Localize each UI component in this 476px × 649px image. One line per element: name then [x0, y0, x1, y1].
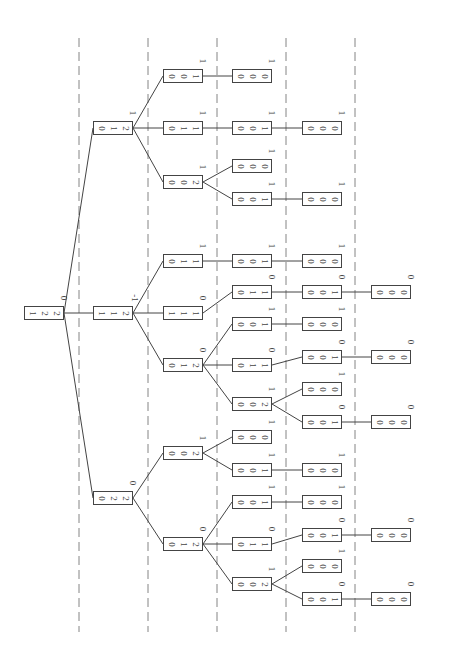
pile-count: 0: [306, 321, 315, 327]
pile-count: 0: [375, 596, 384, 602]
pile-count: 1: [330, 596, 339, 602]
pile-count: 0: [306, 419, 315, 425]
pile-count: 1: [179, 541, 188, 547]
pile-count: 0: [318, 419, 327, 425]
tree-node: 000: [232, 430, 272, 444]
tree-node: 011: [232, 358, 272, 372]
minimax-value: 0: [337, 518, 347, 523]
pile-count: 1: [28, 310, 37, 316]
pile-count: 0: [97, 125, 106, 131]
pile-count: 0: [260, 163, 269, 169]
pile-count: 1: [330, 419, 339, 425]
tree-node: 002: [232, 577, 272, 591]
pile-count: 1: [97, 310, 106, 316]
pile-count: 0: [236, 401, 245, 407]
pile-count: 0: [236, 289, 245, 295]
pile-count: 0: [306, 354, 315, 360]
minimax-value: 1: [198, 111, 208, 116]
pile-count: 0: [179, 73, 188, 79]
pile-count: 1: [109, 125, 118, 131]
pile-count: 0: [318, 532, 327, 538]
pile-count: 1: [248, 362, 257, 368]
tree-node: 002: [232, 397, 272, 411]
pile-count: 0: [318, 354, 327, 360]
minimax-value: 1: [198, 436, 208, 441]
pile-count: 0: [248, 499, 257, 505]
tree-node: 000: [371, 350, 411, 364]
tree-node: 000: [302, 495, 342, 509]
pile-count: 0: [179, 450, 188, 456]
minimax-value: 1: [267, 453, 277, 458]
pile-count: 0: [167, 73, 176, 79]
minimax-value: 1: [337, 372, 347, 377]
minimax-value: 1: [267, 59, 277, 64]
minimax-value: 1: [198, 165, 208, 170]
pile-count: 1: [260, 362, 269, 368]
minimax-value: 1: [337, 549, 347, 554]
pile-count: 0: [260, 434, 269, 440]
tree-node: 000: [302, 463, 342, 477]
pile-count: 0: [248, 321, 257, 327]
pile-count: 0: [375, 289, 384, 295]
pile-count: 0: [248, 258, 257, 264]
pile-count: 1: [260, 541, 269, 547]
pile-count: 0: [306, 386, 315, 392]
minimax-value: 1: [267, 149, 277, 154]
pile-count: 0: [306, 258, 315, 264]
minimax-value: 1: [267, 111, 277, 116]
minimax-value: 0: [337, 582, 347, 587]
pile-count: 0: [318, 386, 327, 392]
pile-count: 0: [387, 532, 396, 538]
tree-node: 011: [163, 121, 203, 135]
minimax-value: 0: [406, 582, 416, 587]
pile-count: 1: [260, 196, 269, 202]
tree-edge: [64, 313, 93, 498]
pile-count: 1: [248, 289, 257, 295]
pile-count: 1: [260, 125, 269, 131]
pile-count: 0: [236, 125, 245, 131]
pile-count: 0: [318, 499, 327, 505]
pile-count: 0: [318, 125, 327, 131]
pile-count: 0: [318, 467, 327, 473]
pile-count: 2: [40, 310, 49, 316]
minimax-value: 0: [267, 275, 277, 280]
minimax-value: 1: [198, 59, 208, 64]
minimax-value: 0: [198, 348, 208, 353]
tree-node: 001: [232, 121, 272, 135]
pile-count: 0: [306, 563, 315, 569]
pile-count: 0: [330, 563, 339, 569]
pile-count: 0: [318, 289, 327, 295]
tree-edge: [272, 535, 302, 544]
pile-count: 0: [318, 196, 327, 202]
tree-node: 011: [163, 254, 203, 268]
pile-count: 0: [318, 563, 327, 569]
pile-count: 0: [248, 163, 257, 169]
pile-count: 1: [179, 125, 188, 131]
minimax-value: 1: [337, 111, 347, 116]
pile-count: 0: [167, 125, 176, 131]
tree-node: 000: [371, 285, 411, 299]
tree-node: 001: [302, 592, 342, 606]
tree-node: 000: [371, 528, 411, 542]
pile-count: 0: [248, 125, 257, 131]
pile-count: 1: [330, 354, 339, 360]
pile-count: 1: [330, 289, 339, 295]
tree-node: 001: [302, 285, 342, 299]
pile-count: 0: [375, 419, 384, 425]
pile-count: 0: [318, 258, 327, 264]
tree-node: 000: [302, 121, 342, 135]
pile-count: 2: [109, 495, 118, 501]
pile-count: 0: [318, 596, 327, 602]
pile-count: 0: [306, 196, 315, 202]
tree-node: 002: [163, 175, 203, 189]
minimax-value: 0: [128, 481, 138, 486]
pile-count: 0: [167, 179, 176, 185]
pile-count: 0: [330, 258, 339, 264]
tree-node: 001: [302, 350, 342, 364]
pile-count: 0: [330, 196, 339, 202]
minimax-value: 1: [267, 420, 277, 425]
pile-count: 0: [236, 434, 245, 440]
tree-node: 000: [232, 159, 272, 173]
tree-edge: [203, 453, 232, 470]
pile-count: 1: [191, 258, 200, 264]
